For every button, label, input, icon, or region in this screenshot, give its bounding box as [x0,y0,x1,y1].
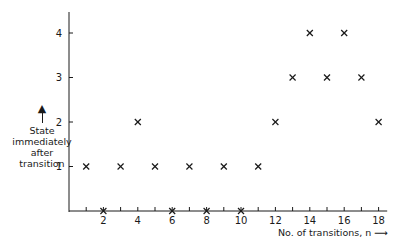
x-axis-label: No. of transitions, n ⟶ [278,227,388,238]
data-point-x-marker [152,164,158,170]
data-point-x-marker [83,164,89,170]
x-axis-label-text: No. of transitions, n [278,227,371,238]
x-tick-label: 10 [235,215,248,226]
data-point-x-marker [272,119,278,125]
y-tick-label: 4 [56,28,62,39]
data-point-x-marker [186,164,192,170]
x-axis-arrow-icon: ⟶ [374,227,388,238]
data-point-x-marker [358,75,364,81]
y-tick-label: 3 [56,72,62,83]
data-point-x-marker [341,30,347,36]
x-tick-label: 2 [100,215,106,226]
x-tick-label: 14 [303,215,316,226]
y-label-line: State [6,125,78,136]
y-label-line: transition [6,158,78,169]
y-axis-arrow-icon: ▲ [6,103,78,115]
y-label-line: after [6,147,78,158]
x-tick-label: 6 [169,215,175,226]
data-point-x-marker [221,164,227,170]
data-point-x-marker [376,119,382,125]
data-point-x-marker [290,75,296,81]
y-label-line: immediately [6,136,78,147]
x-tick-label: 18 [372,215,385,226]
data-point-x-marker [255,164,261,170]
data-point-x-marker [307,30,313,36]
x-tick-label: 16 [338,215,351,226]
x-tick-label: 8 [203,215,209,226]
x-tick-label: 4 [135,215,141,226]
x-tick-label: 12 [269,215,282,226]
data-point-x-marker [118,164,124,170]
data-point-x-marker [324,75,330,81]
data-point-x-marker [135,119,141,125]
y-axis-label: ▲ State immediately after transition [6,103,78,169]
